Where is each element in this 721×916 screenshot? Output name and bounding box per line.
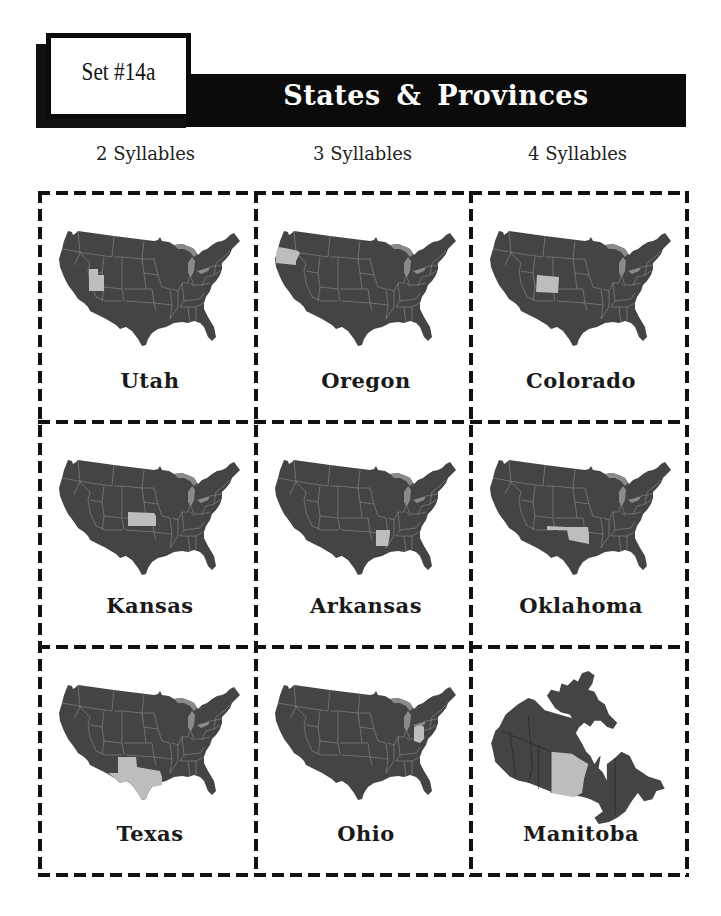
card-label: Oregon (258, 368, 474, 393)
usa-map-arkansas (270, 456, 462, 578)
card-label: Oklahoma (473, 593, 689, 618)
usa-map-ohio (270, 681, 462, 803)
cut-line-bottom (38, 873, 689, 877)
set-number-box: Set #14a (46, 33, 191, 119)
title-banner: States & Provinces (186, 74, 686, 127)
card-kansas: Kansas (42, 424, 258, 645)
usa-map-oklahoma (485, 456, 677, 578)
card-label: Arkansas (258, 593, 474, 618)
usa-map-oregon (270, 227, 462, 349)
card-label: Ohio (258, 821, 474, 846)
card-manitoba: Manitoba (473, 649, 689, 873)
column-header-2-syllables: 2 Syllables (38, 143, 253, 164)
usa-map-kansas (54, 456, 246, 578)
page-title: States & Provinces (186, 80, 686, 111)
canada-map-manitoba (487, 669, 673, 824)
card-label: Kansas (42, 593, 258, 618)
card-label: Utah (42, 368, 258, 393)
set-label: Set #14a (61, 58, 176, 86)
card-ohio: Ohio (258, 649, 474, 873)
column-header-4-syllables: 4 Syllables (470, 143, 685, 164)
card-colorado: Colorado (473, 195, 689, 420)
card-oklahoma: Oklahoma (473, 424, 689, 645)
card-utah: Utah (42, 195, 258, 420)
column-header-3-syllables: 3 Syllables (255, 143, 470, 164)
card-arkansas: Arkansas (258, 424, 474, 645)
card-texas: Texas (42, 649, 258, 873)
usa-map-colorado (485, 227, 677, 349)
card-label: Colorado (473, 368, 689, 393)
usa-map-texas (54, 681, 246, 803)
card-grid: Utah Oregon Colorado (38, 191, 685, 875)
card-label: Manitoba (473, 821, 689, 846)
card-oregon: Oregon (258, 195, 474, 420)
usa-map-utah (54, 227, 246, 349)
card-label: Texas (42, 821, 258, 846)
